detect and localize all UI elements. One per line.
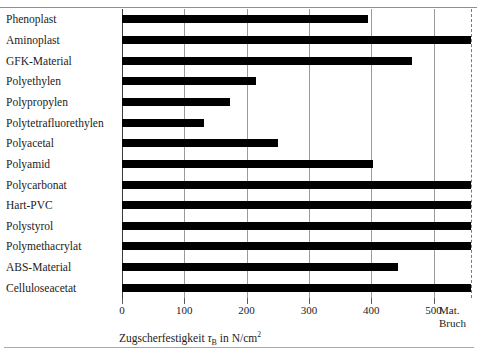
bar-polypropylen — [122, 98, 230, 106]
bar-polystyrol — [122, 222, 471, 230]
gridline-500 — [434, 9, 435, 298]
gridline-200 — [247, 9, 248, 298]
bar-polyacetal — [122, 139, 278, 147]
category-label-polyamid: Polyamid — [6, 158, 50, 170]
x-axis-title: Zugscherfestigkeit τB in N/cm2 — [119, 330, 261, 347]
category-label-hart-pvc: Hart-PVC — [6, 199, 53, 211]
mat-bruch-line1: Mat. — [439, 304, 459, 316]
tick-label-0: 0 — [119, 304, 125, 316]
bar-polyamid — [122, 160, 373, 168]
gridline-100 — [184, 9, 185, 298]
mat-bruch-line2: Bruch — [439, 317, 466, 330]
bar-celluloseacetat — [122, 284, 471, 292]
bar-phenoplast — [122, 15, 368, 23]
bar-aminoplast — [122, 36, 471, 44]
bar-hart-pvc — [122, 201, 471, 209]
category-label-polypropylen: Polypropylen — [6, 96, 68, 108]
tick-label-400: 400 — [363, 304, 380, 316]
category-label-polymethacrylat: Polymethacrylat — [6, 240, 81, 252]
mat-bruch-dashed-line — [471, 9, 472, 298]
category-label-phenoplast: Phenoplast — [6, 13, 56, 25]
category-label-polyacetal: Polyacetal — [6, 137, 54, 149]
bar-gfk-material — [122, 57, 412, 65]
plot-area — [122, 9, 471, 298]
bar-polyethylen — [122, 77, 256, 85]
bar-polytetrafluorethylen — [122, 119, 204, 127]
mat-bruch-annotation: Mat. Bruch — [439, 304, 466, 330]
category-label-aminoplast: Aminoplast — [6, 34, 60, 46]
y-axis-line — [122, 9, 123, 298]
axis-title-unit: in N/cm — [220, 332, 257, 344]
category-label-polyethylen: Polyethylen — [6, 75, 61, 87]
bar-polycarbonat — [122, 181, 471, 189]
caption-remnant — [0, 0, 477, 6]
gridline-400 — [371, 9, 372, 298]
axis-title-prefix: Zugscherfestigkeit — [119, 332, 205, 344]
bar-chart-figure: PhenoplastAminoplastGFK-MaterialPolyethy… — [0, 0, 477, 355]
category-label-polystyrol: Polystyrol — [6, 220, 53, 232]
category-label-gfk-material: GFK-Material — [6, 55, 72, 67]
gridline-300 — [309, 9, 310, 298]
category-label-abs-material: ABS-Material — [6, 261, 71, 273]
category-label-celluloseacetat: Celluloseacetat — [6, 282, 76, 294]
tick-label-100: 100 — [176, 304, 193, 316]
bar-abs-material — [122, 263, 398, 271]
axis-title-unit-exp: 2 — [257, 330, 261, 339]
tick-label-200: 200 — [238, 304, 255, 316]
bottom-divider-rule — [4, 347, 474, 348]
axis-title-subscript: B — [212, 338, 217, 347]
top-divider-rule — [0, 7, 477, 8]
tick-label-300: 300 — [301, 304, 318, 316]
category-label-polytetrafluorethylen: Polytetrafluorethylen — [6, 117, 104, 129]
category-label-polycarbonat: Polycarbonat — [6, 179, 67, 191]
bar-polymethacrylat — [122, 242, 471, 250]
